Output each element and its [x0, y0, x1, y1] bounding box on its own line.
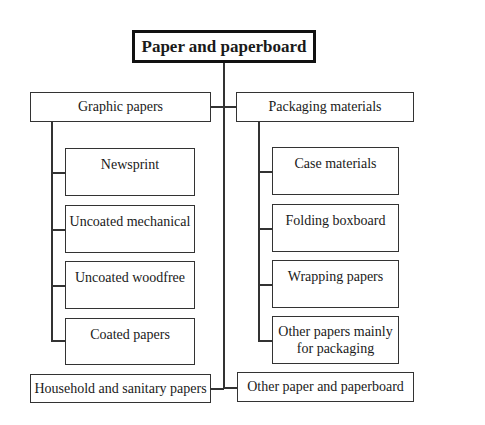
graphic-papers-branch [51, 122, 53, 341]
root-node-paper-and-paperboard: Paper and paperboard [132, 30, 316, 63]
node-label: Uncoated mechanical [66, 214, 194, 230]
node-case-materials: Case materials [272, 147, 399, 195]
node-label: Uncoated woodfree [66, 270, 194, 286]
node-coated-papers: Coated papers [65, 318, 195, 365]
category-label: Graphic papers [78, 99, 163, 115]
node-wrapping-papers: Wrapping papers [272, 260, 399, 308]
connector-newsprint [51, 172, 65, 174]
connector-case-materials [258, 171, 272, 173]
connector-other-papers-packaging [258, 340, 272, 342]
node-label-line2: for packaging [273, 340, 398, 357]
node-label: Coated papers [66, 327, 194, 343]
packaging-materials-branch [258, 122, 260, 341]
category-graphic-papers: Graphic papers [30, 92, 211, 122]
category-household-and-sanitary-papers: Household and sanitary papers [30, 374, 211, 403]
connector-packaging-materials [223, 106, 236, 108]
category-label: Household and sanitary papers [34, 381, 206, 397]
node-label: Wrapping papers [273, 269, 398, 285]
category-label: Other paper and paperboard [247, 379, 404, 395]
node-label: Case materials [273, 156, 398, 172]
node-folding-boxboard: Folding boxboard [272, 204, 399, 252]
node-label-line1: Other papers mainly [273, 323, 398, 340]
node-label: Folding boxboard [273, 213, 398, 229]
connector-coated-papers [51, 340, 65, 342]
node-other-papers-mainly-for-packaging: Other papers mainly for packaging [272, 316, 399, 364]
node-newsprint: Newsprint [65, 148, 195, 196]
connector-folding-boxboard [258, 228, 272, 230]
node-label: Newsprint [66, 157, 194, 173]
connector-other-paper [223, 387, 237, 389]
node-uncoated-woodfree: Uncoated woodfree [65, 261, 195, 309]
connector-wrapping-papers [258, 284, 272, 286]
connector-uncoated-mechanical [51, 229, 65, 231]
category-packaging-materials: Packaging materials [236, 92, 414, 122]
connector-uncoated-woodfree [51, 285, 65, 287]
category-other-paper-and-paperboard: Other paper and paperboard [237, 372, 414, 402]
trunk-connector [223, 63, 225, 388]
root-node-label: Paper and paperboard [142, 39, 307, 55]
category-label: Packaging materials [268, 99, 381, 115]
node-uncoated-mechanical: Uncoated mechanical [65, 205, 195, 253]
